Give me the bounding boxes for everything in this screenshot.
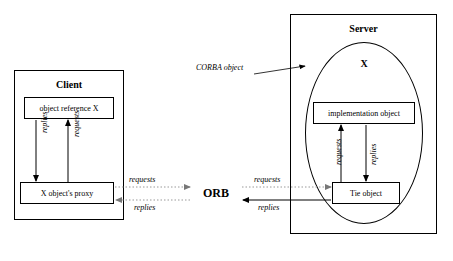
diagram-arrows xyxy=(0,0,453,261)
annotation-pointer-corba-object xyxy=(254,66,305,74)
diagram-canvas: Client Server X object reference X X obj… xyxy=(0,0,453,261)
